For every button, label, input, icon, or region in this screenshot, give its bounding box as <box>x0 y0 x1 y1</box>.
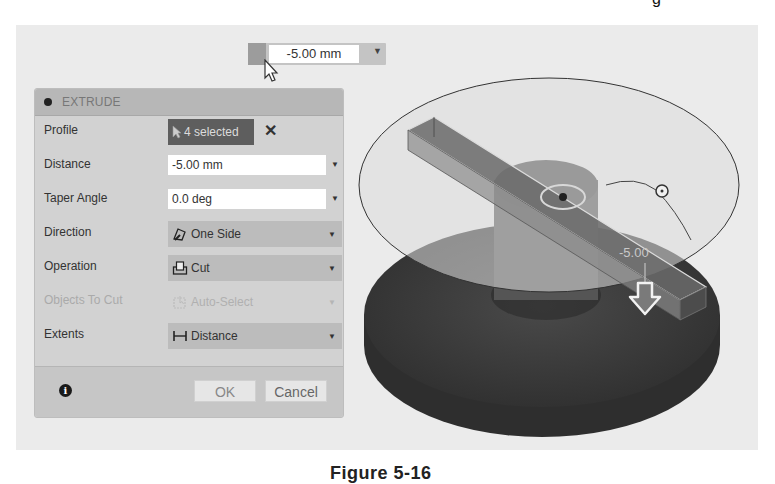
ok-button[interactable]: OK <box>194 380 256 402</box>
extents-dropdown[interactable]: Distance ▼ <box>168 323 342 349</box>
dialog-header[interactable]: EXTRUDE <box>35 89 343 116</box>
objects-to-cut-label: Objects To Cut <box>44 293 122 307</box>
select-arrow-icon <box>172 125 182 139</box>
distance-extent-icon <box>172 328 188 344</box>
chevron-down-icon[interactable]: ▼ <box>331 194 339 203</box>
profile-label: Profile <box>44 123 78 137</box>
dimension-label: -5.00 <box>619 245 649 260</box>
dialog-footer: i OK Cancel <box>35 366 343 417</box>
taper-angle-input[interactable]: 0.0 deg <box>168 189 326 209</box>
chevron-down-icon: ▼ <box>328 332 336 341</box>
cut-icon <box>172 260 188 276</box>
center-point <box>559 193 567 201</box>
direction-label: Direction <box>44 225 91 239</box>
objects-to-cut-value: Auto-Select <box>191 295 253 309</box>
direction-dropdown[interactable]: One Side ▼ <box>168 221 342 247</box>
profile-selection-button[interactable]: 4 selected <box>168 119 254 145</box>
chevron-down-icon[interactable]: ▼ <box>331 160 339 169</box>
chevron-down-icon[interactable]: ▼ <box>373 46 382 56</box>
row-objects-to-cut: Objects To Cut Auto-Select ▼ <box>35 287 343 315</box>
clear-selection-icon[interactable]: ✕ <box>264 121 277 140</box>
row-direction: Direction One Side ▼ <box>35 219 343 247</box>
sketch-plane <box>359 78 739 292</box>
chevron-down-icon: ▼ <box>328 264 336 273</box>
row-operation: Operation Cut ▼ <box>35 253 343 281</box>
collapse-dot-icon[interactable] <box>44 98 52 106</box>
auto-select-icon <box>172 294 188 310</box>
floating-distance-field[interactable]: -5.00 mm <box>269 45 359 63</box>
extents-value: Distance <box>191 329 238 343</box>
3d-viewport[interactable]: -5.00 -5.00 mm ▼ EXTRUDE Profile 4 selec… <box>16 25 758 450</box>
direction-value: One Side <box>191 227 241 241</box>
profile-selection-text: 4 selected <box>184 125 239 139</box>
objects-to-cut-dropdown: Auto-Select ▼ <box>168 289 342 315</box>
row-profile: Profile 4 selected ✕ <box>35 117 343 145</box>
chevron-down-icon: ▼ <box>328 230 336 239</box>
cancel-button[interactable]: Cancel <box>265 380 327 402</box>
chevron-down-icon: ▼ <box>328 298 336 307</box>
distance-input[interactable]: -5.00 mm <box>168 155 326 175</box>
row-extents: Extents Distance ▼ <box>35 321 343 349</box>
extents-label: Extents <box>44 327 84 341</box>
info-icon[interactable]: i <box>59 384 72 397</box>
row-taper-angle: Taper Angle 0.0 deg ▼ <box>35 185 343 213</box>
operation-dropdown[interactable]: Cut ▼ <box>168 255 342 281</box>
previous-caption-fragment: g <box>652 0 661 8</box>
row-distance: Distance -5.00 mm ▼ <box>35 151 343 179</box>
operation-label: Operation <box>44 259 97 273</box>
taper-angle-label: Taper Angle <box>44 191 107 205</box>
one-side-icon <box>172 226 188 242</box>
figure-caption: Figure 5-16 <box>330 463 432 484</box>
dialog-title: EXTRUDE <box>62 95 121 109</box>
operation-value: Cut <box>191 261 210 275</box>
distance-label: Distance <box>44 157 91 171</box>
extrude-dialog: EXTRUDE Profile 4 selected ✕ Distance -5… <box>34 88 344 418</box>
mouse-cursor-icon <box>264 59 280 83</box>
